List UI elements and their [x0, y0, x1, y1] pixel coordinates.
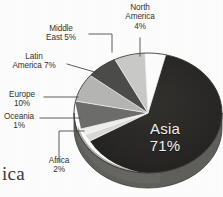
label-europe-line2: 10% [2, 99, 42, 108]
label-europe: Europe 10% [2, 90, 42, 109]
label-oceania: Oceania 1% [0, 112, 38, 131]
leader-latin-america [67, 64, 98, 73]
label-asia-line1: Asia [130, 120, 200, 137]
label-africa-line2: 2% [36, 165, 82, 174]
pie-chart-figure: North America 4% Middle East 5% Latin Am… [0, 0, 223, 197]
label-latin-america-line2: America 7% [2, 61, 66, 70]
label-middle-east-line1: Middle [32, 24, 90, 33]
label-north-america-line3: 4% [104, 22, 176, 31]
label-middle-east-line2: East 5% [32, 33, 90, 42]
label-middle-east: Middle East 5% [32, 24, 90, 43]
label-africa-line1: Africa [36, 156, 82, 165]
page-text-bleed-fragment: ica [2, 163, 25, 185]
label-north-america: North America 4% [104, 3, 176, 31]
leader-middle-east [89, 34, 112, 52]
label-asia-line2: 71% [130, 137, 200, 154]
label-north-america-line1: North [104, 3, 176, 12]
label-north-america-line2: America [104, 12, 176, 21]
label-latin-america: Latin America 7% [2, 52, 66, 71]
label-africa: Africa 2% [36, 156, 82, 175]
label-asia: Asia 71% [130, 120, 200, 154]
label-europe-line1: Europe [2, 90, 42, 99]
label-oceania-line1: Oceania [0, 112, 38, 121]
label-oceania-line2: 1% [0, 121, 38, 130]
label-latin-america-line1: Latin [2, 52, 66, 61]
